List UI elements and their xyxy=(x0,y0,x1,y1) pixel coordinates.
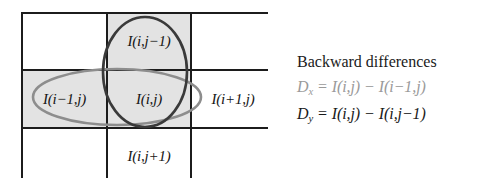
grid-cell-top-left xyxy=(23,14,106,69)
grid-cell-middle-center: I(i,j) xyxy=(108,71,190,127)
grid-cell-label: I(i,j+1) xyxy=(127,148,170,165)
grid-cell-label: I(i,j−1) xyxy=(127,33,170,50)
equation-dy-equals: = xyxy=(317,105,328,122)
equation-dx-right-term: I(i−1,j) xyxy=(379,78,426,95)
grid-cell-middle-right: I(i+1,j) xyxy=(192,71,274,127)
grid-cell-bottom-right xyxy=(192,129,274,184)
backward-differences-caption: Backward differences Dx = I(i,j) − I(i−1… xyxy=(297,52,483,127)
equation-dy-operator: − xyxy=(364,105,375,122)
equation-dx-symbol: D xyxy=(297,78,308,95)
equation-dx: Dx = I(i,j) − I(i−1,j) xyxy=(297,75,483,99)
equation-dy: Dy = I(i,j) − I(i,j−1) xyxy=(297,102,483,126)
equation-dx-subscript: x xyxy=(308,86,313,97)
equation-dx-left-term: I(i,j) xyxy=(332,78,360,95)
pixel-neighborhood-figure: I(i,j−1) I(i−1,j) I(i,j) I(i+1,j) I(i,j+… xyxy=(21,12,268,178)
equation-dx-equals: = xyxy=(317,78,328,95)
equation-dy-symbol: D xyxy=(297,105,308,122)
equation-dx-operator: − xyxy=(364,78,375,95)
grid-cell-top-center: I(i,j−1) xyxy=(108,14,190,69)
grid-cell-bottom-center: I(i,j+1) xyxy=(108,129,190,184)
pixel-grid: I(i,j−1) I(i−1,j) I(i,j) I(i+1,j) I(i,j+… xyxy=(21,12,268,178)
grid-cell-bottom-left xyxy=(23,129,106,184)
caption-title: Backward differences xyxy=(297,52,483,72)
grid-cell-label: I(i+1,j) xyxy=(211,91,254,108)
grid-cell-middle-left: I(i−1,j) xyxy=(23,71,106,127)
grid-cell-label: I(i,j) xyxy=(136,91,162,108)
equation-dy-left-term: I(i,j) xyxy=(332,105,360,122)
grid-cell-label: I(i−1,j) xyxy=(43,91,86,108)
equation-dy-subscript: y xyxy=(308,113,313,124)
equation-dy-right-term: I(i,j−1) xyxy=(379,105,426,122)
grid-cell-top-right xyxy=(192,14,274,69)
